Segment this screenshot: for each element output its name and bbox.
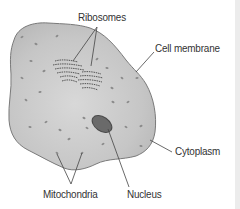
cell-body	[9, 23, 156, 170]
cytoplasm-leader	[150, 140, 172, 152]
page-edge-strip	[235, 0, 240, 209]
label-mitochondria: Mitochondria	[43, 189, 98, 200]
label-cell-membrane: Cell membrane	[155, 43, 220, 54]
label-cytoplasm: Cytoplasm	[175, 146, 220, 157]
cell-membrane-leader	[136, 52, 154, 72]
label-ribosomes: Ribosomes	[78, 12, 126, 23]
cell-illustration	[0, 0, 240, 209]
cell-diagram: Ribosomes Cell membrane Cytoplasm Mitoch…	[0, 0, 240, 209]
label-nucleus: Nucleus	[127, 189, 162, 200]
